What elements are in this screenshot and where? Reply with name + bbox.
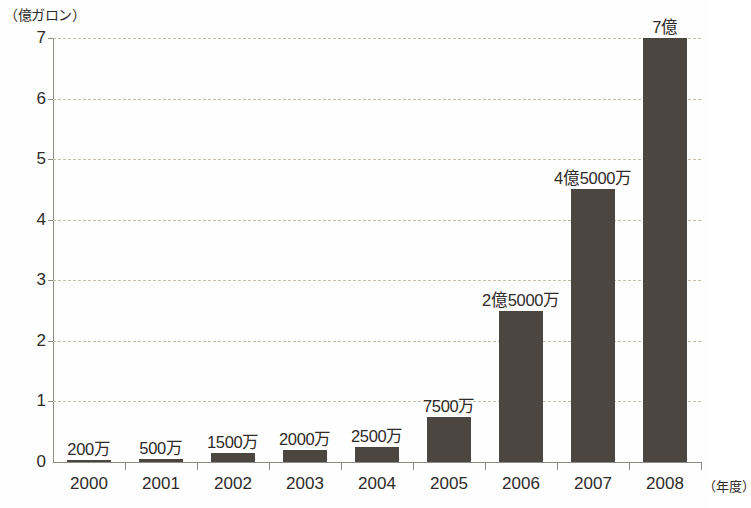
y-axis-tick-label: 4 (6, 211, 46, 228)
bar (355, 447, 399, 462)
bar (283, 450, 327, 462)
x-axis-category-label: 2005 (430, 474, 468, 494)
bar (499, 311, 543, 462)
bar-value-label: 2億5000万 (482, 287, 560, 311)
x-axis-tick-mark (125, 462, 126, 470)
y-axis-tick-mark (48, 159, 53, 160)
x-axis-category-label: 2004 (358, 474, 396, 494)
x-axis-category-label: 2003 (286, 474, 324, 494)
y-axis-tick-label: 1 (6, 392, 46, 409)
bar (427, 417, 471, 462)
x-axis-line (53, 462, 701, 463)
y-axis-line (53, 38, 54, 463)
bar-value-label: 2500万 (351, 423, 403, 447)
x-axis-unit-label: （年度） (703, 476, 751, 495)
x-axis-tick-mark (197, 462, 198, 470)
y-axis-tick-label: 2 (6, 332, 46, 349)
x-axis-category-label: 2000 (70, 474, 108, 494)
bar (139, 459, 183, 462)
x-axis-tick-mark (269, 462, 270, 470)
y-axis-tick-label: 6 (6, 90, 46, 107)
y-axis-tick-mark (48, 220, 53, 221)
bar (571, 189, 615, 462)
bar-value-label: 4億5000万 (554, 165, 632, 189)
bar-value-label: 7億 (652, 14, 678, 38)
plot-area: 01234567 200万500万1500万2000万2500万7500万2億5… (53, 38, 701, 463)
y-axis-tick-mark (48, 38, 53, 39)
bar (67, 460, 111, 462)
x-axis-tick-mark (701, 462, 702, 470)
y-axis-tick-label: 0 (6, 453, 46, 470)
x-axis-category-label: 2006 (502, 474, 540, 494)
x-axis-tick-mark (413, 462, 414, 470)
y-axis-tick-label: 3 (6, 271, 46, 288)
bar-value-label: 500万 (139, 435, 182, 459)
bar-value-label: 7500万 (423, 393, 475, 417)
y-axis-tick-label: 5 (6, 150, 46, 167)
y-axis-tick-mark (48, 341, 53, 342)
gridline (53, 99, 701, 100)
bar-value-label: 1500万 (207, 429, 259, 453)
bar-value-label: 200万 (67, 436, 110, 460)
y-axis-tick-mark (48, 401, 53, 402)
bar (211, 453, 255, 462)
x-axis-tick-mark (341, 462, 342, 470)
x-axis-tick-mark (557, 462, 558, 470)
gridline (53, 38, 701, 39)
bar (643, 38, 687, 462)
x-axis-category-label: 2001 (142, 474, 180, 494)
y-axis-unit-caption: （億ガロン） (4, 4, 85, 24)
x-axis-category-label: 2008 (646, 474, 684, 494)
y-axis-tick-mark (48, 99, 53, 100)
bar-value-label: 2000万 (279, 426, 331, 450)
gridline (53, 159, 701, 160)
y-axis-tick-label: 7 (6, 29, 46, 46)
y-axis-tick-mark (48, 280, 53, 281)
x-axis-category-label: 2007 (574, 474, 612, 494)
x-axis-tick-mark (629, 462, 630, 470)
x-axis-category-label: 2002 (214, 474, 252, 494)
x-axis-tick-mark (485, 462, 486, 470)
